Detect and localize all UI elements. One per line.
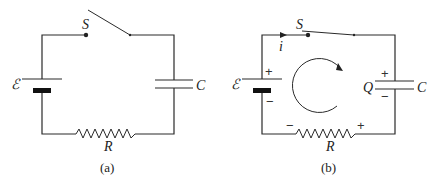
wire-top-right-b bbox=[354, 35, 395, 81]
resistor-label-b: R bbox=[325, 139, 335, 154]
capacitor-label-b: C bbox=[417, 80, 427, 95]
resistor-b bbox=[296, 129, 355, 138]
switch-label-b: S bbox=[296, 17, 303, 32]
wire-top-left-a bbox=[42, 35, 86, 79]
resistor-label-a: R bbox=[103, 139, 113, 154]
circuit-b: i + − + − Q C − + S ℰ R (b) bbox=[231, 17, 427, 175]
switch-arm-open-a bbox=[88, 10, 130, 35]
charge-label: Q bbox=[363, 80, 373, 95]
battery-short-plate-a bbox=[33, 88, 51, 93]
wire-top-right-a bbox=[130, 35, 174, 80]
caption-b: (b) bbox=[321, 160, 336, 175]
circuit-a: S ℰ C R (a) bbox=[11, 10, 206, 175]
capacitor-label-a: C bbox=[196, 78, 206, 93]
emf-label-b: ℰ bbox=[231, 77, 241, 92]
caption-a: (a) bbox=[100, 160, 114, 175]
rc-circuit-figure: S ℰ C R (a) i + − + − Q C − bbox=[0, 0, 431, 180]
resistor-minus-sign: − bbox=[286, 118, 294, 133]
switch-pivot-a bbox=[84, 33, 88, 37]
switch-label-a: S bbox=[82, 17, 89, 32]
loop-arc bbox=[292, 58, 340, 112]
switch-pivot-b bbox=[306, 33, 310, 37]
wire-bottom-right-a bbox=[135, 88, 174, 134]
wire-bottom-left-a bbox=[42, 90, 76, 134]
capacitor-minus-sign: − bbox=[381, 89, 389, 104]
battery-plus-sign: + bbox=[265, 64, 273, 79]
battery-short-plate-b bbox=[253, 88, 271, 93]
loop-arrow-icon bbox=[336, 63, 343, 71]
emf-label-a: ℰ bbox=[11, 77, 21, 92]
current-arrow-icon bbox=[280, 32, 287, 38]
resistor-a bbox=[76, 129, 135, 138]
resistor-plus-sign: + bbox=[357, 118, 365, 133]
capacitor-plus-sign: + bbox=[381, 66, 389, 81]
current-label: i bbox=[279, 39, 283, 54]
battery-minus-sign: − bbox=[266, 94, 274, 109]
